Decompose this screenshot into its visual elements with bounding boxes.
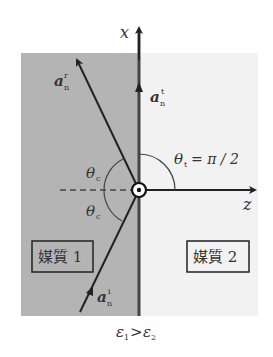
- svg-text:c: c: [96, 212, 101, 221]
- svg-text:n: n: [64, 83, 69, 92]
- medium-1-region: [21, 53, 139, 316]
- svg-text:>: >: [130, 323, 143, 341]
- svg-text:θ: θ: [174, 150, 183, 168]
- svg-text:a: a: [150, 88, 160, 106]
- svg-text:c: c: [96, 174, 101, 183]
- dot-icon: [137, 188, 141, 192]
- z-axis-label: z: [242, 195, 252, 214]
- svg-text:a: a: [97, 288, 107, 306]
- x-axis-label: x: [120, 23, 129, 42]
- svg-text:ε: ε: [143, 323, 151, 341]
- svg-text:a: a: [54, 72, 64, 90]
- svg-text:r: r: [64, 71, 68, 80]
- permittivity-condition: ε 1 > ε 2: [116, 323, 156, 342]
- svg-text:θ: θ: [86, 164, 95, 182]
- svg-text:i: i: [108, 287, 111, 296]
- total-reflection-diagram: x z a n r a n t a n i θ c θ c θ t = π / …: [0, 0, 273, 357]
- svg-text:媒質 1: 媒質 1: [38, 248, 82, 266]
- svg-text:n: n: [107, 299, 112, 308]
- svg-text:1: 1: [124, 333, 129, 342]
- svg-text:2: 2: [151, 333, 156, 342]
- svg-text:θ: θ: [86, 202, 95, 220]
- svg-text:n: n: [160, 99, 165, 108]
- svg-text:= π / 2: = π / 2: [191, 151, 239, 167]
- svg-text:媒質 2: 媒質 2: [193, 248, 237, 266]
- svg-text:ε: ε: [116, 323, 124, 341]
